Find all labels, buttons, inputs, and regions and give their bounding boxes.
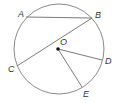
label-point-a: A — [17, 9, 24, 19]
segment-oe — [58, 49, 82, 87]
label-point-d: D — [105, 56, 112, 66]
labels-group: OABCDE — [8, 9, 112, 99]
label-point-e: E — [83, 89, 90, 99]
segment-od — [58, 49, 102, 60]
segment-ab — [26, 17, 92, 18]
label-point-c: C — [8, 64, 15, 74]
label-point-o: O — [60, 37, 67, 47]
label-point-b: B — [95, 10, 101, 20]
center-point-o — [56, 47, 60, 51]
segment-bc — [17, 18, 92, 66]
segments-group — [17, 17, 102, 87]
circle-diagram: OABCDE — [0, 0, 119, 103]
